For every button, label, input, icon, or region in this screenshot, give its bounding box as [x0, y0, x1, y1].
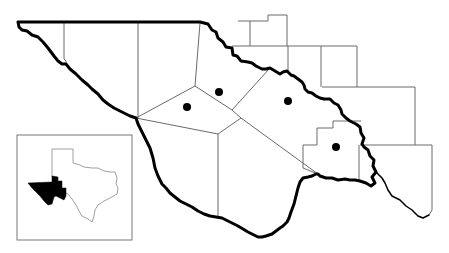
county-line [322, 87, 415, 145]
county-line [232, 46, 357, 87]
county-line [241, 118, 318, 174]
site-marker[interactable] [215, 88, 223, 96]
county-line [195, 23, 200, 86]
locator-inset [17, 135, 132, 240]
map-canvas [0, 0, 449, 253]
site-marker[interactable] [332, 143, 340, 151]
site-marker[interactable] [284, 97, 292, 105]
county-line [136, 110, 241, 134]
county-line [64, 23, 66, 63]
county-line [303, 121, 361, 174]
county-line [238, 15, 287, 46]
county-line [136, 68, 270, 118]
site-marker[interactable] [183, 103, 191, 111]
river-boundary [376, 172, 429, 218]
